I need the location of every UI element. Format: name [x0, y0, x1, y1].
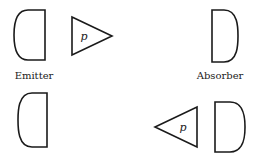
bottom-particle: p — [155, 107, 197, 147]
emitter-shape-icon — [18, 93, 47, 147]
absorber-label: Absorber — [196, 70, 244, 81]
top-absorber — [212, 10, 238, 62]
emitter-label: Emitter — [15, 70, 54, 81]
particle-label-bottom: p — [179, 121, 186, 134]
emitter-absorber-diagram: Emitter p Absorber p — [0, 0, 257, 157]
bottom-absorber — [215, 102, 245, 152]
top-emitter — [14, 10, 45, 60]
emitter-shape-icon — [14, 10, 45, 60]
bottom-emitter — [18, 93, 47, 147]
triangle-right-icon — [72, 17, 112, 55]
particle-label-top: p — [80, 30, 87, 43]
absorber-shape-icon — [212, 10, 238, 62]
absorber-shape-icon — [215, 102, 245, 152]
triangle-left-icon — [155, 107, 197, 147]
top-particle: p — [72, 17, 112, 55]
